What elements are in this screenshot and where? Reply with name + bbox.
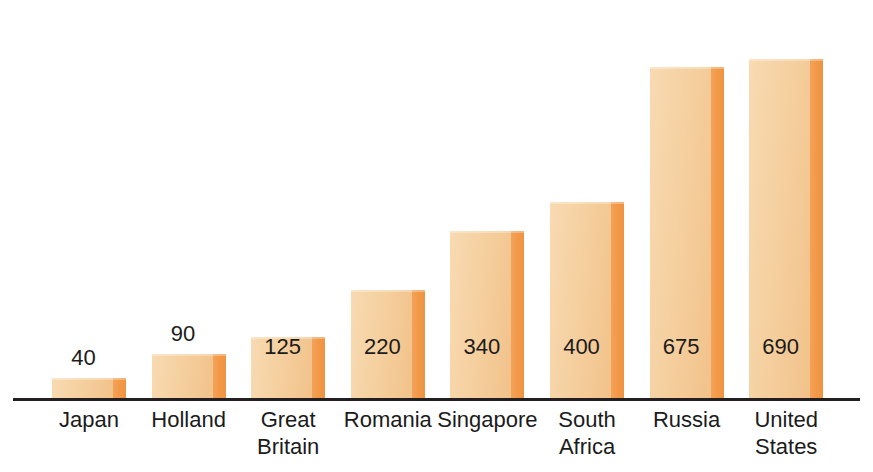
bar-face — [52, 378, 113, 400]
bar-side-shade — [611, 202, 624, 400]
bar-south-africa — [550, 202, 624, 400]
bar-value-label: 40 — [52, 347, 115, 369]
bar-value-label: 690 — [749, 336, 812, 358]
category-label-japan: Japan — [34, 406, 144, 433]
bar-side-shade — [213, 354, 226, 400]
bar-singapore — [450, 231, 524, 400]
category-label-holland: Holland — [134, 406, 244, 433]
bar-value-label: 220 — [351, 336, 414, 358]
bar-value-label: 400 — [550, 336, 613, 358]
category-label-south-africa: South Africa — [532, 406, 642, 460]
bar-side-shade — [113, 378, 126, 400]
bar-value-label: 340 — [450, 336, 513, 358]
category-label-russia: Russia — [632, 406, 742, 433]
x-axis-line — [13, 398, 860, 401]
category-label-romania: Romania — [333, 406, 443, 433]
bar-side-shade — [511, 231, 524, 400]
category-label-great-britain: Great Britain — [233, 406, 343, 460]
bar-japan — [52, 378, 126, 400]
category-label-united-states: United States — [731, 406, 841, 460]
bar-holland — [152, 354, 226, 400]
bar-face — [152, 354, 213, 400]
bar-face — [550, 202, 611, 400]
plot-area: 4090125220340400675690 JapanHollandGreat… — [0, 0, 873, 472]
bar-value-label: 90 — [152, 323, 215, 345]
bar-chart: 4090125220340400675690 JapanHollandGreat… — [0, 0, 873, 472]
bar-face — [450, 231, 511, 400]
category-label-singapore: Singapore — [432, 406, 542, 433]
bar-value-label: 675 — [650, 336, 713, 358]
bar-value-label: 125 — [251, 336, 314, 358]
